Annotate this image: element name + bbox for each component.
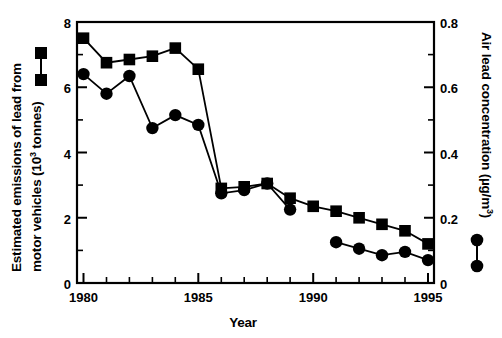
data-point-circle [215,187,227,199]
x-axis-ticks [84,273,429,283]
right-axis-title-pre: Air lead concentration (µg/m [479,32,494,209]
chart-figure: 8 6 4 2 0 0.8 0.6 0.4 0.2 0 1980 1985 19… [0,0,502,338]
left-tick-label: 8 [64,16,71,31]
right-tick-label: 0.2 [440,212,458,227]
left-axis-title-line2-pre: motor vehicles (10 [29,157,44,272]
x-tick-label: 1990 [299,290,328,305]
data-point-circle [353,243,365,255]
data-point-square [193,63,205,75]
data-point-square [307,201,319,213]
left-tick-label: 4 [64,147,72,162]
left-axis-ticks [77,22,87,283]
data-point-circle [330,236,342,248]
series-emissions-line [84,38,429,244]
x-tick-labels: 1980 1985 1990 1995 [69,290,442,305]
series-airlead-markers [77,68,434,266]
lead-emissions-line-chart: 8 6 4 2 0 0.8 0.6 0.4 0.2 0 1980 1985 19… [0,0,502,338]
x-tick-label: 1985 [184,290,213,305]
data-point-circle [192,119,204,131]
data-point-circle [399,246,411,258]
left-axis-title: Estimated emissions of lead from motor v… [9,47,47,272]
series-airlead-line [84,74,429,260]
legend-marker-circle [471,234,484,273]
left-axis-title-line2-post: tonnes) [29,101,44,152]
right-axis-title: Air lead concentration (µg/m3) [471,32,495,272]
data-point-circle [146,122,158,134]
data-point-circle [422,254,434,266]
data-point-square [101,57,113,69]
data-point-square [376,219,388,231]
data-point-square [284,192,296,204]
x-tick-label: 1980 [69,290,98,305]
x-axis-title: Year [229,315,258,330]
right-tick-label: 0.4 [440,147,459,162]
data-point-circle [77,68,89,80]
right-axis-title-post: ) [479,214,494,218]
data-point-square [170,42,182,54]
svg-text:Air lead concentration (µg/m3): Air lead concentration (µg/m3) [479,32,495,218]
data-point-square [330,205,342,217]
svg-text:motor vehicles (103 tonnes): motor vehicles (103 tonnes) [28,101,44,272]
left-axis-title-line1: Estimated emissions of lead from [9,63,24,272]
legend-marker-square [35,47,47,86]
data-point-circle [284,203,296,215]
data-point-square [399,225,411,237]
right-tick-labels: 0.8 0.6 0.4 0.2 0 [440,16,459,292]
left-tick-label: 2 [64,212,71,227]
data-point-square [422,238,434,250]
x-tick-label: 1995 [414,290,443,305]
data-point-square [353,212,365,224]
right-tick-label: 0.6 [440,81,458,96]
data-point-square [124,54,136,66]
data-point-square [147,50,159,62]
series-emissions-markers [78,32,434,249]
data-point-circle [123,70,135,82]
left-tick-labels: 8 6 4 2 0 [64,16,72,292]
data-point-circle [376,249,388,261]
left-tick-label: 6 [64,81,71,96]
data-point-circle [169,109,181,121]
data-point-circle [238,184,250,196]
data-point-square [78,32,90,44]
svg-text:Estimated emissions of lead fr: Estimated emissions of lead from [9,63,24,272]
data-point-circle [100,88,112,100]
data-point-circle [261,177,273,189]
right-tick-label: 0.8 [440,16,458,31]
